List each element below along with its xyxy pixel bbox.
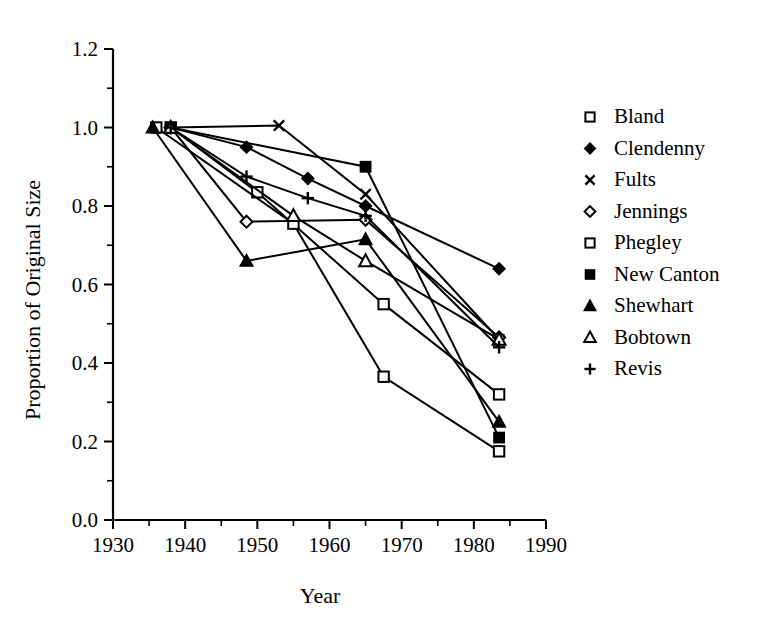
y-axis: 0.00.20.40.60.81.01.2 bbox=[72, 37, 113, 532]
legend-label: New Canton bbox=[614, 262, 720, 286]
x-tick-label: 1950 bbox=[236, 533, 278, 557]
marker-filled-triangle bbox=[359, 233, 372, 245]
series-clendenny bbox=[165, 122, 505, 275]
marker-open-square bbox=[585, 238, 594, 247]
legend: BlandClendennyFultsJenningsPhegleyNew Ca… bbox=[584, 104, 720, 380]
series-fults bbox=[166, 120, 505, 344]
legend-item-fults[interactable]: Fults bbox=[585, 167, 656, 191]
series-layer bbox=[146, 120, 505, 456]
legend-label: Shewhart bbox=[614, 293, 693, 317]
marker-filled-diamond bbox=[302, 173, 314, 185]
marker-filled-square bbox=[494, 432, 504, 442]
legend-label: Jennings bbox=[614, 199, 688, 223]
x-axis: 1930194019501960197019801990 bbox=[92, 520, 567, 557]
series-path bbox=[171, 126, 499, 340]
legend-label: Bobtown bbox=[614, 325, 692, 349]
legend-item-revis[interactable]: Revis bbox=[584, 356, 661, 380]
x-tick-label: 1960 bbox=[309, 533, 351, 557]
series-path bbox=[153, 128, 499, 422]
legend-label: Clendenny bbox=[614, 136, 705, 160]
legend-item-shewhart[interactable]: Shewhart bbox=[584, 293, 693, 317]
x-axis-title: Year bbox=[300, 583, 341, 608]
y-tick-label: 0.4 bbox=[72, 351, 99, 375]
y-tick-label: 0.8 bbox=[72, 194, 98, 218]
legend-label: Bland bbox=[614, 104, 665, 128]
legend-item-jennings[interactable]: Jennings bbox=[585, 199, 688, 223]
legend-item-bobtown[interactable]: Bobtown bbox=[584, 325, 691, 349]
series-revis bbox=[165, 121, 506, 353]
series-shewhart bbox=[146, 121, 505, 427]
marker-open-diamond bbox=[585, 206, 596, 217]
marker-open-triangle bbox=[584, 332, 596, 343]
marker-open-triangle bbox=[287, 209, 300, 221]
y-tick-label: 0.2 bbox=[72, 430, 98, 454]
legend-item-new-canton[interactable]: New Canton bbox=[585, 262, 720, 286]
series-path bbox=[171, 128, 499, 269]
marker-open-square bbox=[378, 299, 388, 309]
line-chart-figure: 0.00.20.40.60.81.01.2 193019401950196019… bbox=[0, 0, 761, 626]
series-bobtown bbox=[164, 121, 505, 345]
legend-label: Revis bbox=[614, 356, 662, 380]
legend-item-bland[interactable]: Bland bbox=[585, 104, 664, 128]
marker-filled-diamond bbox=[585, 143, 596, 154]
series-path bbox=[171, 128, 499, 438]
marker-open-triangle bbox=[359, 254, 372, 266]
legend-label: Phegley bbox=[614, 230, 682, 254]
y-tick-label: 1.0 bbox=[72, 116, 98, 140]
marker-cross-x bbox=[360, 189, 370, 199]
x-tick-label: 1980 bbox=[453, 533, 495, 557]
x-tick-label: 1940 bbox=[164, 533, 206, 557]
x-tick-label: 1990 bbox=[525, 533, 567, 557]
chart-canvas: 0.00.20.40.60.81.01.2 193019401950196019… bbox=[0, 0, 761, 626]
series-phegley bbox=[151, 122, 504, 456]
series-path bbox=[156, 128, 499, 452]
marker-open-square bbox=[378, 372, 388, 382]
y-tick-label: 0.0 bbox=[72, 508, 98, 532]
y-axis-title: Proportion of Original Size bbox=[20, 180, 45, 420]
marker-open-square bbox=[494, 446, 504, 456]
legend-item-clendenny[interactable]: Clendenny bbox=[585, 136, 706, 160]
marker-filled-square bbox=[360, 162, 370, 172]
marker-filled-diamond bbox=[493, 263, 505, 275]
y-tick-label: 1.2 bbox=[72, 37, 98, 61]
marker-plus bbox=[302, 192, 314, 204]
marker-filled-triangle bbox=[584, 300, 596, 311]
y-tick-label: 0.6 bbox=[72, 273, 98, 297]
series-jennings bbox=[165, 122, 505, 344]
marker-open-square bbox=[585, 112, 594, 121]
legend-item-phegley[interactable]: Phegley bbox=[585, 230, 682, 254]
marker-plus bbox=[584, 363, 595, 374]
x-tick-label: 1970 bbox=[381, 533, 423, 557]
legend-label: Fults bbox=[614, 167, 656, 191]
marker-filled-square bbox=[585, 270, 594, 279]
marker-cross-x bbox=[585, 175, 594, 184]
marker-open-square bbox=[494, 389, 504, 399]
x-tick-label: 1930 bbox=[92, 533, 134, 557]
